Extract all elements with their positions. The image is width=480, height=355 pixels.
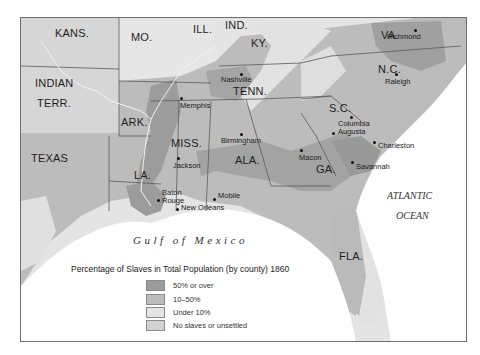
legend-label: 10–50% [173,295,201,304]
state-label-ind: IND. [225,20,248,31]
city-label-nashville: Nashville [221,76,251,84]
legend-label: 50% or over [173,281,213,290]
city-label-mobile: Mobile [218,192,240,200]
state-label-ga: GA. [316,164,336,175]
city-label-raleigh: Raleigh [385,78,410,86]
city-dot-charleston [373,141,376,144]
state-label-ark: ARK. [121,117,147,128]
state-label-fla: FLA. [339,251,363,262]
city-label-memphis: Memphis [180,102,210,110]
state-label-la: LA. [134,170,151,181]
map-frame: KANS. MO. ILL. IND. KY. VA. INDIAN TERR.… [20,17,467,342]
state-label-sc: S.C. [329,103,351,114]
state-label-mo: MO. [131,32,152,43]
city-dot-augusta [332,132,335,135]
city-label-savannah: Savannah [356,163,390,171]
city-label-macon: Macon [299,154,322,162]
state-label-kans: KANS. [55,28,89,39]
water-label-ocean: OCEAN [396,211,429,221]
city-dot-memphis [180,97,183,100]
legend-swatch [146,320,165,331]
state-label-indian-terr: INDIAN [35,78,73,89]
city-dot-baton-rouge [157,199,160,202]
water-label-atlantic: ATLANTIC [387,191,432,201]
legend-swatch [146,280,165,291]
city-dot-jackson [177,157,180,160]
city-label-charleston: Charleston [378,142,414,150]
legend-label: No slaves or unsettled [173,321,247,330]
state-label-ala: ALA. [235,155,260,166]
city-label-augusta: Augusta [338,128,366,136]
city-dot-raleigh [395,73,398,76]
state-label-miss: MISS. [171,138,202,149]
state-label-tenn: TENN. [233,86,267,97]
state-label-ky: KY. [251,38,268,49]
legend-label: Under 10% [173,308,211,317]
city-label-richmond: Richmond [387,33,421,41]
city-dot-new-orleans [176,208,179,211]
legend-swatch [146,307,165,318]
water-label-gulf: Gulf of Mexico [133,235,248,246]
city-label-birmingham: Birmingham [221,137,261,145]
city-label-jackson: Jackson [173,162,201,170]
city-dot-mobile [213,198,216,201]
state-label-ill: ILL. [193,24,212,35]
city-dot-macon [300,149,303,152]
state-label-texas: TEXAS [31,153,68,164]
legend-title: Percentage of Slaves in Total Population… [71,265,289,274]
city-dot-savannah [351,161,354,164]
state-label-indian-terr-2: TERR. [37,98,71,109]
legend-swatch [146,294,165,305]
city-label-new-orleans: New Orleans [181,204,224,212]
